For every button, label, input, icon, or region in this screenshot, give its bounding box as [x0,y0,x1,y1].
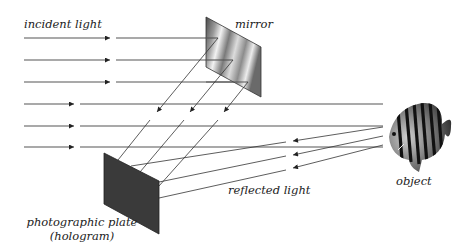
photographic-plate-label: photographic plate [27,215,138,229]
incident-light-label: incident light [24,17,102,31]
fish-object [389,102,451,172]
reflected-light-label: reflected light [228,183,311,197]
hologram-label: (hologram) [50,229,115,243]
object-label: object [396,174,432,188]
incident-beams-to-object [24,104,383,147]
mirror-label: mirror [235,17,275,31]
hologram-recording-diagram: incident light mirror [0,0,463,252]
